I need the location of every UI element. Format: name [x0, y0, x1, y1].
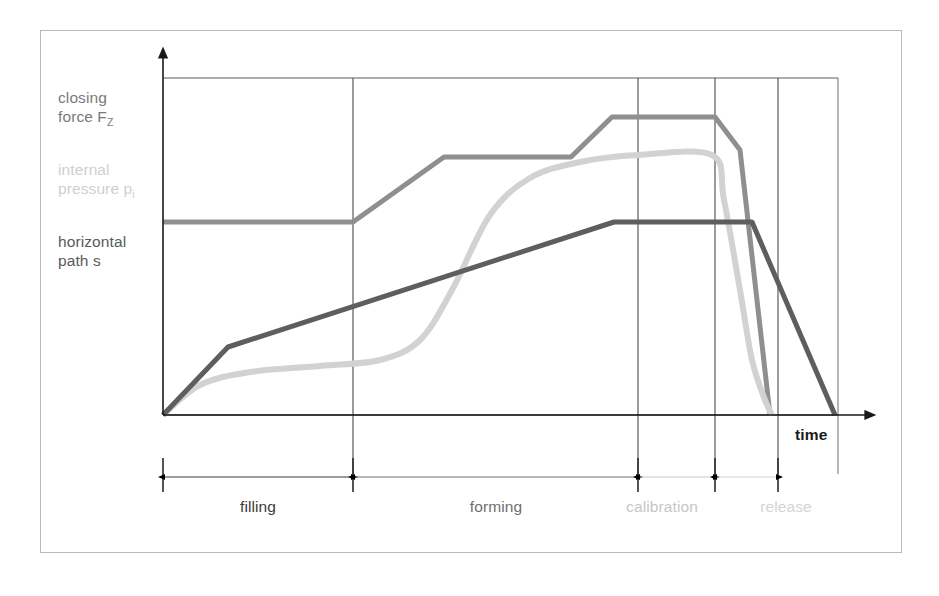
series-line-internal — [163, 151, 772, 415]
data-series — [163, 117, 835, 415]
plot-area — [0, 0, 939, 596]
figure-container: closing force FZ internal pressure pi ho… — [0, 0, 939, 596]
phase-measure-bars — [163, 458, 778, 492]
